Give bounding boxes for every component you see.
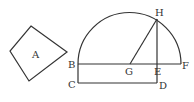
- semicircle-arc: [78, 13, 181, 65]
- label-a: A: [31, 49, 40, 60]
- label-c: C: [68, 79, 76, 90]
- label-d: D: [159, 80, 167, 91]
- label-h: H: [155, 7, 164, 18]
- label-b: B: [68, 59, 75, 70]
- label-f: F: [182, 60, 189, 71]
- diagram-canvas: A B C D E F G H: [0, 0, 194, 102]
- line-gh: [130, 19, 157, 64]
- label-g: G: [125, 66, 133, 77]
- label-e: E: [154, 66, 161, 77]
